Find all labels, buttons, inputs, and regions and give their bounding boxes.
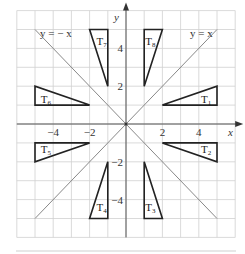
triangle-label: T3 (145, 201, 156, 215)
triangle-label: T7 (97, 35, 108, 49)
x-tick-label: 2 (160, 126, 166, 138)
triangle-label: T5 (41, 143, 52, 157)
labels: y = − x y = x y x (40, 11, 233, 138)
triangle-T1: T1 (162, 86, 217, 107)
y-tick-label: 2 (118, 80, 124, 92)
triangle-label: T2 (201, 143, 212, 157)
triangle-T5: T5 (35, 143, 90, 162)
triangle-T7: T7 (90, 30, 108, 87)
y-tick-label: 4 (118, 42, 124, 54)
y-axis-arrow-icon (123, 3, 129, 11)
triangle-label: T6 (41, 93, 52, 107)
triangle-label: T8 (145, 35, 156, 49)
y-tick-label: −2 (111, 156, 123, 168)
line-label-y-neg-x: y = − x (40, 27, 72, 39)
x-axis-arrow-icon (235, 121, 243, 127)
triangle-label: T1 (201, 93, 212, 107)
x-axis-label: x (227, 126, 233, 138)
origin-point (125, 123, 128, 126)
x-tick-label: −4 (47, 126, 59, 138)
x-tick-label: 4 (196, 126, 202, 138)
triangle-T4: T4 (90, 162, 108, 219)
line-label-y-eq-x: y = x (190, 27, 213, 39)
triangle-label: T4 (97, 201, 108, 215)
triangle-T3: T3 (144, 162, 162, 219)
triangle-T6: T6 (35, 86, 90, 107)
y-tick-label: −4 (111, 194, 123, 206)
y-axis-label: y (113, 11, 119, 23)
triangle-T8: T8 (144, 30, 162, 87)
coordinate-diagram: T1T2T3T4T5T6T7T8 y = − x y = x y x −4−22… (0, 0, 245, 254)
triangle-T2: T2 (162, 143, 217, 162)
x-tick-label: −2 (84, 126, 96, 138)
